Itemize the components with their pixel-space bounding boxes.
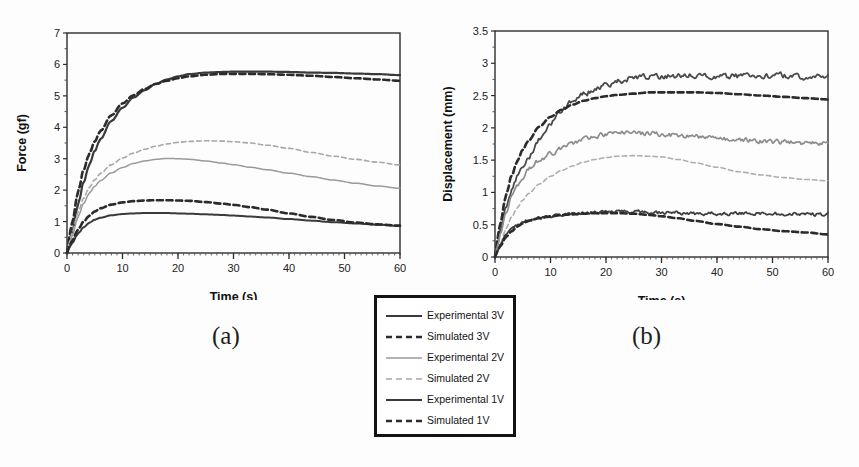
force-vs-time-chart: 012345670102030405060Time (s)Force (gf) bbox=[0, 0, 430, 300]
chart-axes: 00.511.522.533.50102030405060Time (s)Dis… bbox=[441, 25, 834, 300]
series-line-simulated-2v bbox=[495, 156, 828, 257]
y-axis-tick-label: 3.5 bbox=[473, 25, 488, 37]
x-axis-tick-label: 20 bbox=[600, 266, 612, 278]
y-axis-tick-label: 4 bbox=[54, 121, 60, 133]
legend-item: Simulated 3V bbox=[385, 326, 507, 347]
series-line-simulated-1v bbox=[495, 213, 828, 257]
series-line-simulated-3v bbox=[67, 74, 400, 253]
plot-area-frame bbox=[67, 33, 400, 253]
x-axis-tick-label: 10 bbox=[116, 262, 128, 274]
y-axis-tick-label: 2.5 bbox=[473, 90, 488, 102]
series-line-simulated-1v bbox=[67, 200, 400, 253]
y-axis-tick-label: 1 bbox=[54, 216, 60, 228]
legend-item: Experimental 2V bbox=[385, 347, 507, 368]
x-axis-tick-label: 20 bbox=[172, 262, 184, 274]
legend-line-swatch-dashed bbox=[385, 415, 423, 427]
x-axis-title: Time (s) bbox=[210, 290, 258, 300]
chart-series-group bbox=[67, 72, 400, 253]
x-axis-title: Time (s) bbox=[638, 294, 686, 300]
chart-axes: 012345670102030405060Time (s)Force (gf) bbox=[15, 27, 406, 300]
x-axis-tick-label: 30 bbox=[227, 262, 239, 274]
panel-a-caption: (a) bbox=[212, 322, 240, 350]
series-line-simulated-2v bbox=[67, 141, 400, 253]
y-axis-title: Displacement (mm) bbox=[441, 86, 455, 201]
legend-line-swatch-solid bbox=[385, 394, 423, 406]
chart-panel-displacement: 00.511.522.533.50102030405060Time (s)Dis… bbox=[430, 0, 859, 300]
legend-item-label: Simulated 1V bbox=[427, 415, 489, 426]
chart-series-group bbox=[495, 72, 828, 257]
y-axis-tick-label: 1 bbox=[482, 186, 488, 198]
x-axis-tick-label: 10 bbox=[544, 266, 556, 278]
y-axis-tick-label: 6 bbox=[54, 58, 60, 70]
figure-root: 012345670102030405060Time (s)Force (gf) … bbox=[0, 0, 859, 467]
y-axis-tick-label: 0 bbox=[54, 247, 60, 259]
x-axis-tick-label: 0 bbox=[492, 266, 498, 278]
series-line-simulated-3v bbox=[495, 92, 828, 257]
series-line-experimental-3v bbox=[495, 72, 828, 257]
y-axis-tick-label: 7 bbox=[54, 27, 60, 39]
y-axis-tick-label: 1.5 bbox=[473, 154, 488, 166]
x-axis-tick-label: 30 bbox=[655, 266, 667, 278]
panel-b-caption: (b) bbox=[632, 322, 661, 350]
y-axis-tick-label: 3 bbox=[482, 57, 488, 69]
legend-line-swatch-dashed bbox=[385, 331, 423, 343]
legend-line-swatch-dashed bbox=[385, 373, 423, 385]
legend-item-label: Experimental 1V bbox=[427, 394, 504, 405]
y-axis-title: Force (gf) bbox=[15, 114, 29, 172]
x-axis-tick-label: 0 bbox=[64, 262, 70, 274]
legend-item: Simulated 1V bbox=[385, 410, 507, 431]
y-axis-tick-label: 0.5 bbox=[473, 219, 488, 231]
legend-line-swatch-solid bbox=[385, 310, 423, 322]
legend-item: Simulated 2V bbox=[385, 368, 507, 389]
legend-item: Experimental 1V bbox=[385, 389, 507, 410]
x-axis-tick-label: 50 bbox=[338, 262, 350, 274]
y-axis-tick-label: 5 bbox=[54, 90, 60, 102]
chart-panel-force: 012345670102030405060Time (s)Force (gf) bbox=[0, 0, 430, 300]
x-axis-tick-label: 60 bbox=[822, 266, 834, 278]
legend-item-label: Experimental 2V bbox=[427, 352, 504, 363]
x-axis-tick-label: 60 bbox=[394, 262, 406, 274]
plot-area-frame bbox=[495, 31, 828, 257]
chart-legend: Experimental 3VSimulated 3VExperimental … bbox=[374, 295, 516, 437]
legend-item-label: Experimental 3V bbox=[427, 310, 504, 321]
legend-item-label: Simulated 3V bbox=[427, 331, 489, 342]
x-axis-tick-label: 50 bbox=[766, 266, 778, 278]
y-axis-tick-label: 2 bbox=[54, 184, 60, 196]
y-axis-tick-label: 2 bbox=[482, 122, 488, 134]
y-axis-tick-label: 0 bbox=[482, 251, 488, 263]
legend-line-swatch-solid bbox=[385, 352, 423, 364]
x-axis-tick-label: 40 bbox=[711, 266, 723, 278]
series-line-experimental-2v bbox=[495, 131, 828, 257]
y-axis-tick-label: 3 bbox=[54, 153, 60, 165]
series-line-experimental-1v bbox=[67, 213, 400, 253]
legend-item: Experimental 3V bbox=[385, 305, 507, 326]
legend-item-label: Simulated 2V bbox=[427, 373, 489, 384]
x-axis-tick-label: 40 bbox=[283, 262, 295, 274]
displacement-vs-time-chart: 00.511.522.533.50102030405060Time (s)Dis… bbox=[430, 0, 859, 300]
